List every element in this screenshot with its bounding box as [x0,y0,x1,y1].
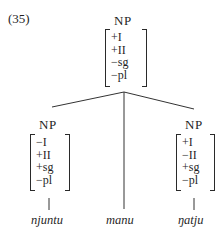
feature: −sg [105,56,147,69]
right-feature-matrix: +I −II +sg −pl [176,134,215,191]
example-number: (35) [8,12,30,25]
feature: +sg [30,161,70,174]
left-leaf-word: njuntu [31,214,63,227]
right-bracket [142,29,147,87]
feature: −pl [105,69,147,82]
right-bracket [210,134,215,191]
right-bracket [65,134,70,191]
root-feature-matrix: +I +II −sg −pl [105,29,147,87]
branch-right [124,92,194,109]
left-node-label: NP [39,118,57,131]
feature: −pl [30,174,70,187]
left-bracket [30,134,35,191]
left-bracket [176,134,181,191]
root-node-label: NP [114,14,132,27]
feature: +I [105,29,147,44]
branch-left [52,92,124,107]
feature: −I [30,134,70,149]
left-feature-matrix: −I +II +sg −pl [30,134,70,191]
left-bracket [105,29,110,87]
right-leaf-word: ŋatju [178,214,203,227]
right-node-label: NP [185,118,203,131]
center-leaf-word: manu [106,214,134,227]
